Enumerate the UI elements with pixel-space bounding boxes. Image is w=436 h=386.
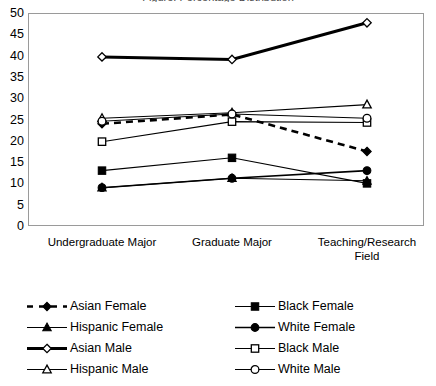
chart-figure: Figure: Percentage Distribution 50454035…: [0, 0, 436, 386]
legend-item[interactable]: Asian Female: [24, 296, 146, 317]
legend-symbol: [24, 338, 70, 359]
legend-item[interactable]: Asian Male: [24, 338, 132, 359]
legend-label: Black Male: [278, 342, 339, 355]
data-point-marker: [228, 110, 236, 118]
data-point-marker: [363, 100, 371, 108]
data-point-marker: [43, 344, 51, 352]
legend-item[interactable]: Hispanic Male: [24, 359, 149, 380]
legend-label: Asian Female: [70, 300, 146, 313]
chart-legend: Asian FemaleBlack FemaleHispanic FemaleW…: [0, 296, 436, 386]
legend-label: White Male: [278, 363, 341, 376]
legend-item[interactable]: Black Female: [232, 296, 354, 317]
data-point-marker: [251, 324, 259, 332]
legend-symbol: [24, 296, 70, 317]
legend-symbol: [232, 338, 278, 359]
legend-label: Hispanic Male: [70, 363, 149, 376]
data-point-marker: [228, 55, 236, 63]
data-point-marker: [363, 114, 371, 122]
data-point-marker: [228, 118, 235, 125]
data-point-marker: [251, 366, 259, 374]
data-point-marker: [228, 174, 236, 182]
series-white-female: [98, 167, 371, 192]
legend-item[interactable]: Hispanic Female: [24, 317, 163, 338]
data-point-marker: [43, 302, 51, 310]
series-line: [102, 23, 367, 60]
legend-item[interactable]: White Female: [232, 317, 355, 338]
data-point-marker: [98, 53, 106, 61]
data-point-marker: [363, 167, 371, 175]
data-point-marker: [98, 138, 105, 145]
data-point-marker: [98, 117, 106, 125]
data-point-marker: [98, 184, 106, 192]
legend-symbol: [24, 317, 70, 338]
data-point-marker: [251, 303, 258, 310]
data-point-marker: [363, 19, 371, 27]
legend-symbol: [232, 317, 278, 338]
legend-label: Black Female: [278, 300, 354, 313]
legend-symbol: [232, 296, 278, 317]
plot-area: 50454035302520151050 Undergraduate Major…: [0, 0, 436, 240]
plot-svg: [0, 0, 436, 240]
legend-label: White Female: [278, 321, 355, 334]
legend-item[interactable]: Black Male: [232, 338, 339, 359]
series-black-female: [98, 154, 370, 187]
legend-symbol: [232, 359, 278, 380]
legend-symbol: [24, 359, 70, 380]
data-point-marker: [228, 154, 235, 161]
x-axis-tick-label: Teaching/Research Field: [308, 236, 426, 263]
legend-label: Hispanic Female: [70, 321, 163, 334]
series-asian-male: [98, 19, 371, 64]
data-point-marker: [251, 345, 258, 352]
legend-item[interactable]: White Male: [232, 359, 341, 380]
data-point-marker: [98, 167, 105, 174]
legend-label: Asian Male: [70, 342, 132, 355]
data-point-marker: [363, 147, 371, 155]
